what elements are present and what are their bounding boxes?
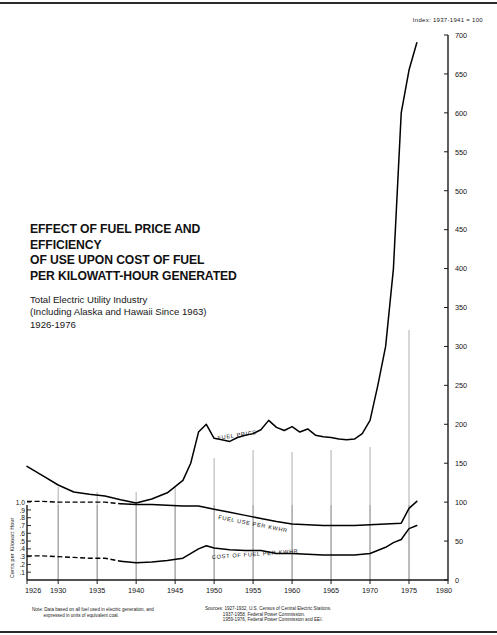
y-left-tick-label-.3: .3 [20, 553, 26, 560]
y-left-tick-label-.9: .9 [20, 507, 26, 514]
subtitle-line-2: (Including Alaska and Hawaii Since 1963) [30, 306, 260, 318]
y-tick-label-50: 50 [455, 537, 463, 546]
series-inline-labels: FUEL PRICE FUEL USE PER KWHR COST OF FUE… [212, 429, 299, 560]
y-tick-label-300: 300 [455, 342, 467, 351]
left-axis-tick-labels: 1.0.9.8.7.6.5.4.3.2.1 [16, 499, 26, 576]
left-axis-title: Cents per Kilowatt Hour [9, 517, 15, 578]
series-label-fuel-price: FUEL PRICE [217, 429, 257, 441]
x-tick-label-1960: 1960 [284, 586, 300, 595]
x-tick-label-1955: 1955 [245, 586, 261, 595]
y-tick-label-450: 450 [455, 225, 467, 234]
title-line-3: PER KILOWATT-HOUR GENERATED [30, 269, 260, 285]
y-tick-label-350: 350 [455, 303, 467, 312]
y-left-tick-label-.2: .2 [20, 561, 26, 568]
title-block: EFFECT OF FUEL PRICE AND EFFICIENCY OF U… [30, 222, 260, 331]
x-tick-label-1965: 1965 [323, 586, 339, 595]
chart-page: Index: 1937-1941 = 100 05010015020025030… [0, 0, 497, 635]
y-tick-label-400: 400 [455, 264, 467, 273]
x-tick-label-1930: 1930 [50, 586, 66, 595]
series-cost-of-fuel-per-kwhr-dashed [27, 556, 121, 561]
y-tick-label-550: 550 [455, 148, 467, 157]
subtitle-block: Total Electric Utility Industry (Includi… [30, 294, 260, 331]
x-tick-label-1935: 1935 [89, 586, 105, 595]
x-tick-label-1980: 1980 [436, 586, 452, 595]
title-line-2: OF USE UPON COST OF FUEL [30, 253, 260, 269]
data-note: Note: Data based on all fuel used in ele… [32, 607, 154, 618]
y-left-tick-label-.7: .7 [20, 522, 26, 529]
right-axis-tick-labels: 0501001502002503003504004505005506006507… [455, 31, 467, 585]
y-tick-label-650: 650 [455, 70, 467, 79]
y-left-tick-label-1.0: 1.0 [16, 499, 25, 506]
x-tick-label-1950: 1950 [206, 586, 222, 595]
y-tick-label-100: 100 [455, 498, 467, 507]
page-title: EFFECT OF FUEL PRICE AND EFFICIENCY OF U… [30, 222, 260, 284]
sources-note: Sources: 1927-1932, U.S. Census of Centr… [205, 606, 331, 623]
series-fuel-use-per-kwhr-dashed [27, 501, 121, 503]
y-left-tick-label-.4: .4 [20, 545, 26, 552]
series-fuel-use-per-kwhr [121, 501, 417, 525]
x-tick-label-1975: 1975 [401, 586, 417, 595]
y-tick-label-250: 250 [455, 381, 467, 390]
x-tick-label-1945: 1945 [167, 586, 183, 595]
x-tick-label-1970: 1970 [362, 586, 378, 595]
y-tick-label-200: 200 [455, 420, 467, 429]
y-left-tick-label-.1: .1 [20, 569, 26, 576]
y-tick-label-600: 600 [455, 109, 467, 118]
vertical-gridlines [58, 330, 409, 580]
subtitle-line-1: Total Electric Utility Industry [30, 294, 260, 306]
y-tick-label-0: 0 [455, 576, 459, 585]
y-left-tick-label-.8: .8 [20, 514, 26, 521]
y-left-tick-label-.6: .6 [20, 530, 26, 537]
y-left-tick-label-.5: .5 [20, 538, 26, 545]
title-line-1: EFFECT OF FUEL PRICE AND EFFICIENCY [30, 222, 260, 253]
y-tick-label-500: 500 [455, 187, 467, 196]
x-tick-label-1926: 1926 [25, 586, 41, 595]
x-tick-label-1940: 1940 [128, 586, 144, 595]
subtitle-line-3: 1926-1976 [30, 319, 260, 331]
x-axis-tick-labels: 1926193019351940194519501955196019651970… [25, 586, 452, 595]
y-tick-label-150: 150 [455, 459, 467, 468]
y-tick-label-700: 700 [455, 31, 467, 40]
series-cost-of-fuel-per-kwhr [121, 526, 417, 563]
